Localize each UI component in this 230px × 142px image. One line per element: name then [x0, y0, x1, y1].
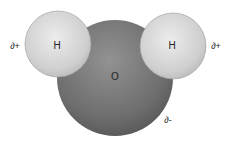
hydrogen-right-label: H [168, 40, 175, 51]
charge-left-label: ∂+ [10, 41, 20, 51]
oxygen-label: O [111, 71, 119, 82]
water-molecule-diagram: O H H ∂+ ∂+ ∂- [0, 0, 230, 142]
hydrogen-left-label: H [53, 40, 60, 51]
charge-right-label: ∂+ [211, 41, 221, 51]
charge-oxygen-label: ∂- [164, 115, 171, 125]
